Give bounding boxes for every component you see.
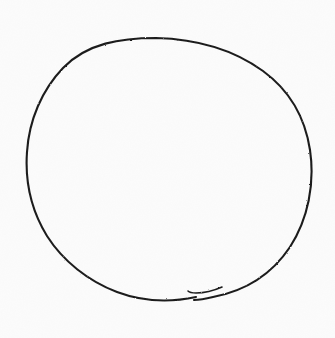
hand-drawn-circle-drawing (0, 0, 335, 338)
stroke-end-hook-icon (188, 287, 222, 293)
circle-outline-stroke (27, 38, 312, 300)
sketch-canvas (0, 0, 335, 338)
